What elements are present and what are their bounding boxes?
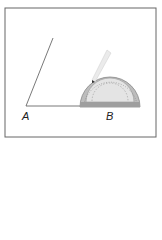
point-a-label: A [22,110,29,122]
point-b-label: B [106,110,113,122]
